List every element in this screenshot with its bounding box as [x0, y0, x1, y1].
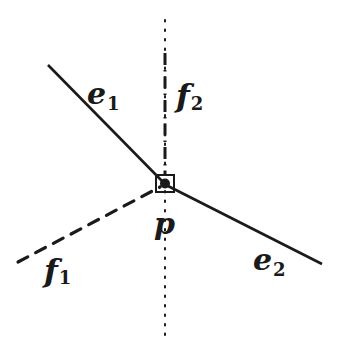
diagram-canvas: e1 f2 p f1 e2	[0, 0, 342, 361]
diagram-svg: e1 f2 p f1 e2	[0, 0, 342, 361]
edge-e2-line	[168, 186, 322, 264]
vertex-dot-icon	[160, 179, 170, 189]
label-f2: f2	[174, 77, 203, 115]
label-f1: f1	[42, 252, 71, 290]
label-p: p	[154, 206, 175, 241]
label-e2: e2	[253, 242, 286, 280]
face-f1-line	[18, 187, 160, 262]
label-e1: e1	[87, 76, 120, 114]
